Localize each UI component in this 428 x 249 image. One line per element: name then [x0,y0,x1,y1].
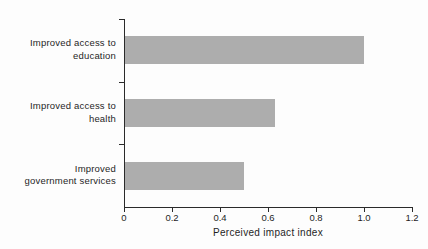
x-tick-label: 1.2 [405,212,418,223]
bar-chart-figure: Improved access toeducationImproved acce… [0,0,428,249]
x-tick-label: 1.0 [357,212,370,223]
category-label-line: Improved access to [4,100,116,113]
bar [125,99,275,127]
x-tick-label: 0 [121,212,126,223]
category-label-line: education [4,50,116,63]
category-label-line: government services [4,175,116,188]
category-label-line: Improved access to [4,37,116,50]
category-label: Improvedgovernment services [4,163,116,188]
category-label: Improved access toeducation [4,37,116,62]
y-axis-tick [119,144,124,145]
bar [125,36,364,64]
x-tick-label: 0.2 [165,212,178,223]
category-label: Improved access tohealth [4,100,116,125]
category-label-line: health [4,113,116,126]
x-tick-label: 0.8 [309,212,322,223]
x-tick-label: 0.6 [261,212,274,223]
bar [125,162,244,190]
x-tick-label: 0.4 [213,212,226,223]
category-label-line: Improved [4,163,116,176]
y-axis-tick [119,82,124,83]
y-axis-tick [119,19,124,20]
x-axis-title: Perceived impact index [124,227,412,238]
